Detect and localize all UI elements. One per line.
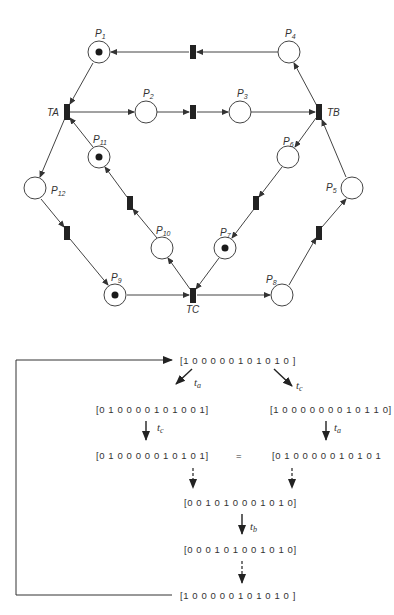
transition-tb — [316, 104, 322, 120]
petri-net — [40, 52, 346, 295]
place-p5 — [341, 177, 363, 199]
place-p2 — [135, 101, 157, 123]
label-p4: P4 — [285, 28, 296, 40]
label-tc-right: tc — [296, 379, 303, 393]
marking-right-2: [0 1 0 0 0 0 0 1 0 1 0 1 — [272, 450, 381, 461]
transition-tc — [190, 288, 196, 303]
marking-right-1: [1 0 0 0 0 0 0 0 1 0 1 1 0] — [270, 404, 392, 415]
place-p4 — [278, 41, 300, 63]
arrow-tc-right — [274, 369, 292, 386]
place-p10 — [151, 237, 173, 259]
arc-p11-ta — [70, 118, 93, 147]
label-p10: P10 — [156, 225, 171, 237]
arc-t-p11 — [105, 167, 127, 197]
transition-bar — [190, 105, 196, 119]
label-p2: P2 — [143, 88, 154, 100]
marking-end: [1 0 0 0 0 0 1 0 1 0 1 0 ] — [180, 590, 296, 601]
arc-p12-t — [41, 199, 64, 227]
arc-p10-t — [133, 209, 157, 238]
arc-tb-p6 — [295, 118, 316, 147]
reachability-graph: [1 0 0 0 0 0 1 0 1 0 1 0 ] ta tc [0 1 0 … — [16, 355, 392, 601]
label-ta-right: ta — [334, 421, 341, 435]
arc-p5-tb — [322, 120, 346, 177]
label-p3: P3 — [237, 88, 248, 100]
token-p11 — [96, 154, 103, 161]
transition-bar — [316, 226, 322, 240]
arc-t-p9 — [70, 239, 108, 285]
token-p1 — [96, 49, 103, 56]
transition-ta — [64, 104, 70, 120]
arc-tc-p10 — [168, 258, 190, 289]
transition-bar — [190, 45, 196, 59]
arc-t-p5 — [322, 199, 346, 227]
label-tc: TC — [186, 304, 200, 315]
arc-p8-t — [289, 238, 316, 285]
arc-p1-ta — [70, 63, 93, 104]
arc-tb-p4 — [294, 63, 317, 106]
label-ta-left: ta — [194, 376, 201, 390]
loop-back-arrow — [16, 360, 172, 595]
transition-bar — [127, 196, 133, 210]
transitions — [64, 45, 322, 303]
label-p9: P9 — [111, 272, 122, 284]
arc-t-p7 — [232, 209, 254, 238]
label-p6: P6 — [283, 136, 294, 148]
label-p5: P5 — [326, 182, 337, 194]
label-tb: TB — [327, 107, 340, 118]
places — [24, 41, 363, 306]
marking-mid-1: [0 0 1 0 1 0 0 0 1 0 1 0] — [184, 497, 297, 508]
label-p7: P7 — [220, 227, 232, 239]
place-p3 — [229, 101, 251, 123]
token-p9 — [112, 292, 119, 299]
place-p8 — [271, 284, 293, 306]
label-p11: P11 — [93, 134, 107, 146]
label-p8: P8 — [266, 274, 277, 286]
diagram-canvas: P1 P2 P3 P4 P5 P6 P7 P8 P9 P10 P11 P12 T… — [0, 0, 394, 615]
arc-ta-p12 — [40, 118, 65, 177]
label-p12: P12 — [51, 185, 66, 197]
token-p7 — [222, 245, 229, 252]
marking-left-1: [0 1 0 0 0 0 1 0 1 0 0 1] — [96, 404, 209, 415]
tokens — [96, 49, 229, 299]
place-p6 — [277, 146, 299, 168]
equals-sign: = — [236, 450, 242, 461]
arc-p7-tc — [196, 258, 219, 289]
label-p1: P1 — [95, 28, 106, 40]
marking-mid-2: [0 0 0 1 0 1 0 0 1 0 1 0] — [184, 544, 297, 555]
marking-left-2: [0 1 0 0 0 0 0 1 0 1 0 1] — [96, 450, 209, 461]
arc-p6-t — [259, 167, 282, 197]
label-tc-left: tc — [157, 421, 164, 435]
label-tb-mid: tb — [250, 520, 257, 534]
label-ta: TA — [47, 107, 59, 118]
arrow-ta-left — [176, 369, 192, 384]
place-p12 — [24, 177, 46, 199]
transition-bar — [64, 226, 70, 240]
transition-bar — [253, 196, 259, 210]
marking-m0: [1 0 0 0 0 0 1 0 1 0 1 0 ] — [180, 355, 296, 366]
